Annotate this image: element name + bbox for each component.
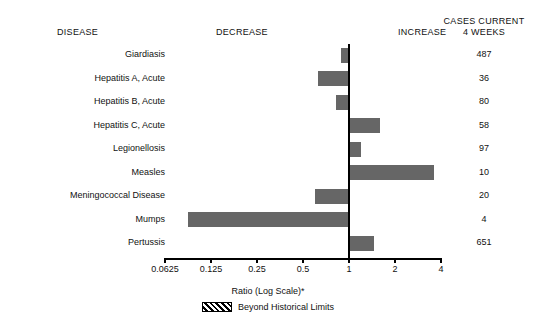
ratio-bar (349, 165, 434, 180)
chart-row: Pertussis651 (0, 232, 536, 256)
chart-row: Mumps4 (0, 209, 536, 233)
x-axis-tick-label: 1 (346, 264, 351, 274)
x-axis-tick (256, 258, 257, 263)
ratio-bar (336, 95, 349, 110)
disease-label: Hepatitis B, Acute (0, 96, 165, 106)
x-axis-tick-label: 0.5 (297, 264, 310, 274)
column-header-disease: DISEASE (57, 27, 98, 37)
cases-header-line-1: CASES CURRENT (436, 16, 532, 27)
x-axis-tick (348, 258, 349, 263)
x-axis-tick (440, 258, 441, 263)
disease-label: Hepatitis C, Acute (0, 120, 165, 130)
ratio-bar (349, 236, 374, 251)
column-header-decrease: DECREASE (216, 27, 268, 37)
x-axis-tick (210, 258, 211, 263)
chart-row: Hepatitis A, Acute36 (0, 68, 536, 92)
x-axis-tick (164, 258, 165, 263)
x-axis-tick-label: 4 (438, 264, 443, 274)
disease-label: Hepatitis A, Acute (0, 73, 165, 83)
hatched-swatch-icon (202, 302, 232, 312)
case-count: 20 (436, 190, 532, 200)
chart-row: Hepatitis B, Acute80 (0, 91, 536, 115)
x-axis-tick-label: 0.25 (248, 264, 266, 274)
legend: Beyond Historical Limits (0, 302, 536, 312)
disease-label: Legionellosis (0, 143, 165, 153)
case-count: 36 (436, 73, 532, 83)
ratio-bar (318, 71, 349, 86)
ratio-bar (188, 212, 349, 227)
ratio-bar (315, 189, 349, 204)
disease-label: Giardiasis (0, 49, 165, 59)
column-header-cases: CASES CURRENT 4 WEEKS (436, 16, 532, 38)
disease-label: Mumps (0, 214, 165, 224)
legend-label: Beyond Historical Limits (238, 302, 334, 312)
ratio-bar (349, 142, 361, 157)
x-axis-title: Ratio (Log Scale)* (0, 286, 536, 296)
x-axis-tick-label: 2 (392, 264, 397, 274)
cases-header-line-2: 4 WEEKS (436, 27, 532, 38)
case-count: 4 (436, 214, 532, 224)
chart-row: Meningococcal Disease20 (0, 185, 536, 209)
chart-row: Giardiasis487 (0, 44, 536, 68)
chart-row: Legionellosis97 (0, 138, 536, 162)
plot-area: Giardiasis487Hepatitis A, Acute36Hepatit… (0, 44, 536, 256)
case-count: 97 (436, 143, 532, 153)
chart-row: Hepatitis C, Acute58 (0, 115, 536, 139)
case-count: 10 (436, 167, 532, 177)
case-count: 651 (436, 237, 532, 247)
chart-row: Measles10 (0, 162, 536, 186)
x-axis-tick-label: 0.125 (200, 264, 223, 274)
disease-label: Measles (0, 167, 165, 177)
case-count: 487 (436, 49, 532, 59)
disease-ratio-chart: DISEASE DECREASE INCREASE CASES CURRENT … (0, 0, 536, 329)
ratio-bar (349, 118, 380, 133)
x-axis-tick (394, 258, 395, 263)
case-count: 58 (436, 120, 532, 130)
baseline-reference-line (348, 44, 350, 258)
x-axis-tick (302, 258, 303, 263)
disease-label: Pertussis (0, 237, 165, 247)
case-count: 80 (436, 96, 532, 106)
x-axis-tick-label: 0.0625 (151, 264, 179, 274)
disease-label: Meningococcal Disease (0, 190, 165, 200)
